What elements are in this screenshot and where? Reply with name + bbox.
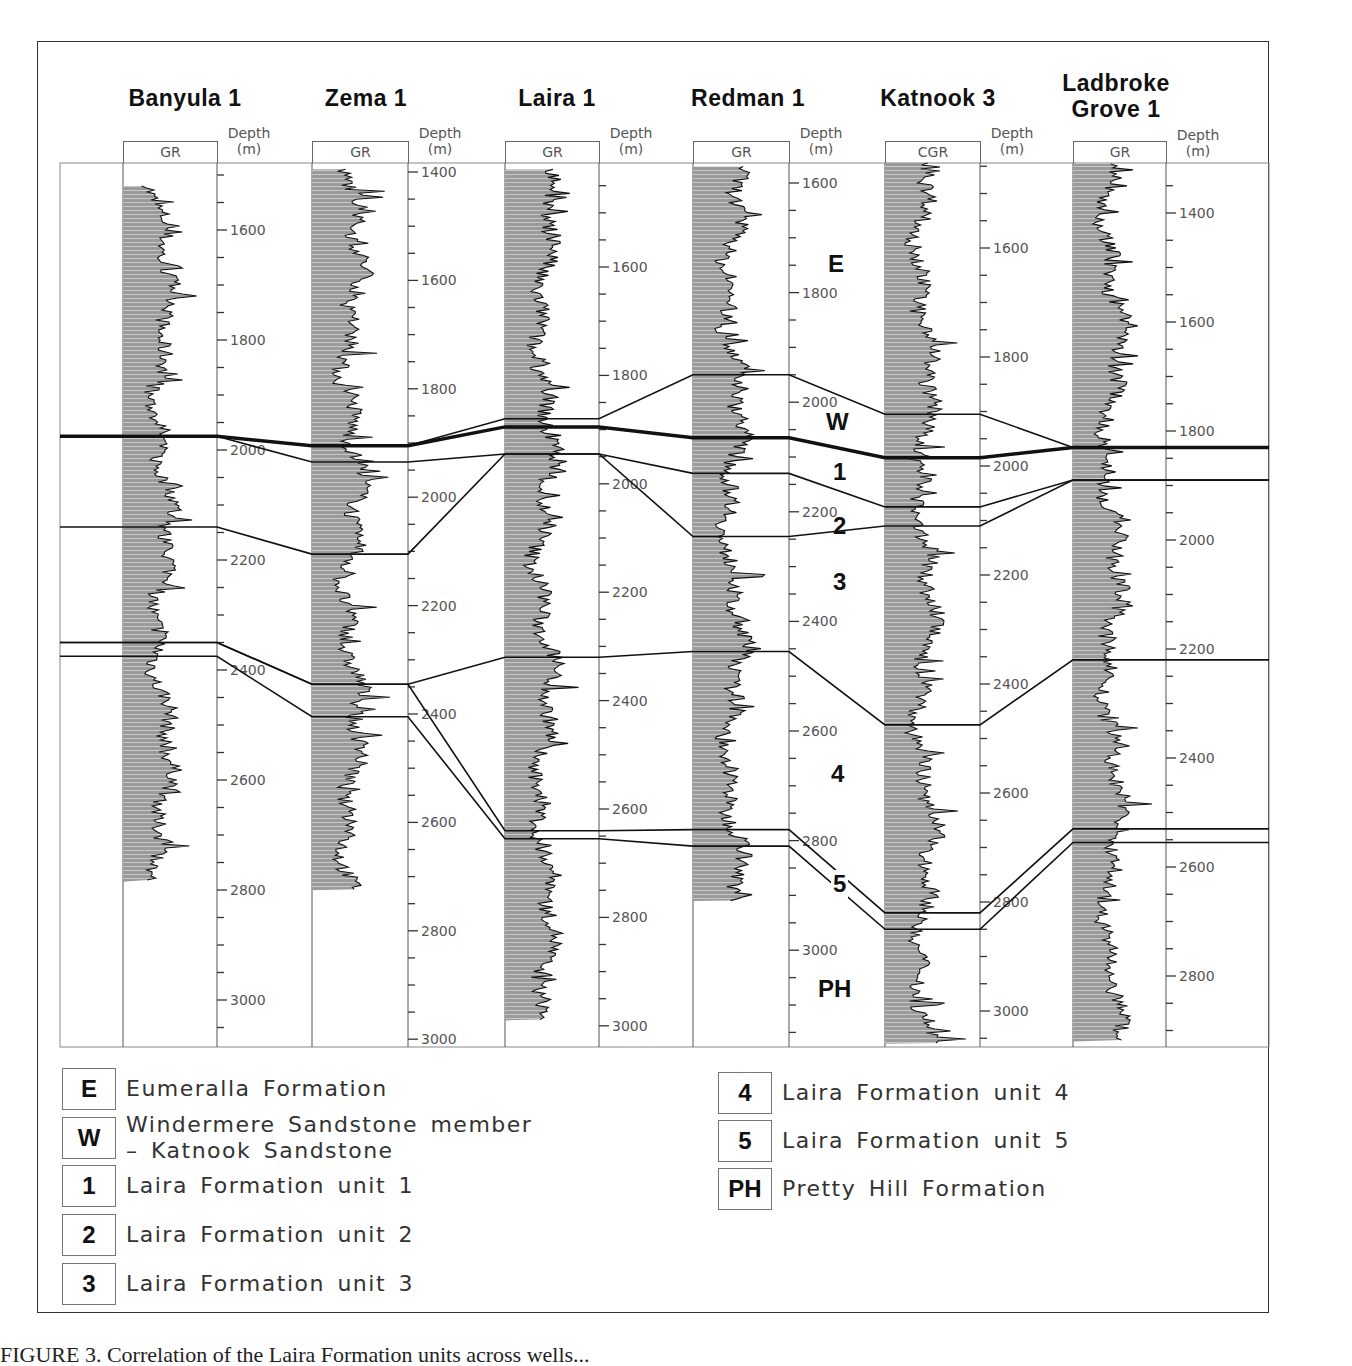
zone-label-w: W <box>826 408 849 436</box>
depth-axis-header: Depth (m) <box>791 125 851 157</box>
legend-label: Laira Formation unit 2 <box>126 1222 414 1248</box>
depth-tick-label: 2400 <box>612 693 648 709</box>
depth-tick-label: 2000 <box>993 458 1029 474</box>
depth-tick-label: 1400 <box>421 164 457 180</box>
legend-label: Windermere Sandstone member – Katnook Sa… <box>126 1112 532 1164</box>
legend-item-1: 1 Laira Formation unit 1 <box>62 1163 414 1209</box>
log-track-header: GR <box>1073 141 1167 163</box>
depth-tick-label: 1800 <box>802 285 838 301</box>
log-track-header: CGR <box>885 141 981 163</box>
well-title: Laira 1 <box>467 85 647 111</box>
well-title: Redman 1 <box>658 85 838 111</box>
depth-tick-label: 2200 <box>1179 641 1215 657</box>
zone-label-4: 4 <box>831 760 844 788</box>
depth-tick-label: 2600 <box>802 723 838 739</box>
zone-label-5: 5 <box>831 870 848 898</box>
figure-caption: FIGURE 3. Correlation of the Laira Forma… <box>0 1342 590 1366</box>
depth-tick-label: 2600 <box>612 801 648 817</box>
legend-code: 2 <box>62 1214 116 1256</box>
depth-tick-label: 2400 <box>421 706 457 722</box>
depth-axis-header: Depth (m) <box>410 125 470 157</box>
depth-tick-label: 1400 <box>1179 205 1215 221</box>
depth-tick-label: 1600 <box>993 240 1029 256</box>
depth-tick-label: 2000 <box>612 476 648 492</box>
well-title: Katnook 3 <box>848 85 1028 111</box>
log-track-header: GR <box>505 141 600 163</box>
gr-log-fill <box>312 169 390 890</box>
depth-tick-label: 2800 <box>230 882 266 898</box>
legend-label: Laira Formation unit 1 <box>126 1173 414 1199</box>
depth-tick-label: 3000 <box>230 992 266 1008</box>
well-title: Zema 1 <box>276 85 456 111</box>
well-title: Banyula 1 <box>95 85 275 111</box>
legend-label: Laira Formation unit 5 <box>782 1128 1070 1154</box>
zone-label-1: 1 <box>833 458 846 486</box>
depth-tick-label: 3000 <box>421 1031 457 1047</box>
gr-log-fill <box>693 167 765 901</box>
legend-item-5: 5 Laira Formation unit 5 <box>718 1118 1070 1164</box>
legend-code: 3 <box>62 1263 116 1305</box>
depth-tick-label: 1800 <box>230 332 266 348</box>
depth-tick-label: 2400 <box>802 613 838 629</box>
depth-tick-label: 1600 <box>230 222 266 238</box>
depth-axis-header: Depth (m) <box>982 125 1042 157</box>
legend-code: PH <box>718 1168 772 1210</box>
depth-tick-label: 2800 <box>421 923 457 939</box>
depth-tick-label: 1800 <box>421 381 457 397</box>
depth-axis-header: Depth (m) <box>601 125 661 157</box>
depth-tick-label: 2600 <box>993 785 1029 801</box>
zone-label-2: 2 <box>833 512 846 540</box>
depth-tick-label: 2600 <box>421 814 457 830</box>
depth-tick-label: 2600 <box>230 772 266 788</box>
depth-tick-label: 2000 <box>421 489 457 505</box>
log-track-header: GR <box>312 141 409 163</box>
depth-tick-label: 2400 <box>993 676 1029 692</box>
legend-item-E: E Eumeralla Formation <box>62 1066 388 1112</box>
depth-tick-label: 3000 <box>612 1018 648 1034</box>
gr-log-fill <box>505 169 579 1020</box>
legend-code: 4 <box>718 1072 772 1114</box>
depth-tick-label: 2400 <box>1179 750 1215 766</box>
depth-tick-label: 2000 <box>1179 532 1215 548</box>
zone-label-3: 3 <box>833 568 846 596</box>
well-title: Ladbroke Grove 1 <box>1026 70 1206 122</box>
depth-tick-label: 2200 <box>993 567 1029 583</box>
depth-tick-label: 2600 <box>1179 859 1215 875</box>
legend-item-2: 2 Laira Formation unit 2 <box>62 1212 414 1258</box>
depth-tick-label: 2200 <box>421 598 457 614</box>
depth-tick-label: 1800 <box>612 367 648 383</box>
depth-tick-label: 1800 <box>1179 423 1215 439</box>
depth-tick-label: 2800 <box>612 909 648 925</box>
depth-tick-label: 2800 <box>1179 968 1215 984</box>
depth-tick-label: 1600 <box>421 272 457 288</box>
legend-label: Eumeralla Formation <box>126 1076 388 1102</box>
legend-code: E <box>62 1068 116 1110</box>
legend-label: Laira Formation unit 3 <box>126 1271 414 1297</box>
depth-axis-header: Depth (m) <box>219 125 279 157</box>
gr-log-fill <box>123 186 197 882</box>
depth-tick-label: 2200 <box>612 584 648 600</box>
zone-label-ph: PH <box>818 975 851 1003</box>
log-track-header: GR <box>693 141 790 163</box>
legend-item-4: 4 Laira Formation unit 4 <box>718 1070 1070 1116</box>
legend-item-W: W Windermere Sandstone member – Katnook … <box>62 1114 532 1162</box>
depth-tick-label: 3000 <box>993 1003 1029 1019</box>
depth-tick-label: 1800 <box>993 349 1029 365</box>
zone-label-e: E <box>828 250 844 278</box>
depth-tick-label: 1600 <box>612 259 648 275</box>
legend-code: 5 <box>718 1120 772 1162</box>
legend-label: Laira Formation unit 4 <box>782 1080 1070 1106</box>
log-track-header: GR <box>123 141 218 163</box>
depth-tick-label: 2200 <box>230 552 266 568</box>
depth-tick-label: 3000 <box>802 942 838 958</box>
depth-tick-label: 1600 <box>802 175 838 191</box>
depth-axis-header: Depth (m) <box>1168 127 1228 159</box>
legend-code: W <box>62 1117 116 1159</box>
legend-item-3: 3 Laira Formation unit 3 <box>62 1261 414 1307</box>
legend-code: 1 <box>62 1165 116 1207</box>
depth-tick-label: 1600 <box>1179 314 1215 330</box>
legend-label: Pretty Hill Formation <box>782 1176 1047 1202</box>
legend-item-PH: PH Pretty Hill Formation <box>718 1166 1047 1212</box>
